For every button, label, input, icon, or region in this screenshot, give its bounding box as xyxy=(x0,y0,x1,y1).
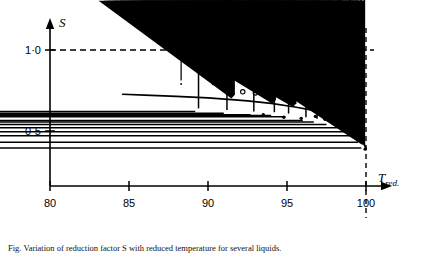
x-tick-label-0: 80 xyxy=(44,197,56,209)
filled-dot-markers xyxy=(323,118,326,121)
figure-container: 0·51·080859095100STred. xyxy=(0,0,424,258)
filled-dot-markers xyxy=(282,116,285,119)
filled-dot-markers xyxy=(364,147,367,150)
y-axis-title: S xyxy=(59,15,66,30)
circle-markers xyxy=(241,90,245,94)
y-tick-label-1: 1·0 xyxy=(25,44,41,56)
filled-dot-markers xyxy=(361,141,364,144)
x-tick-label-1: 85 xyxy=(123,197,135,209)
filled-dot-markers xyxy=(350,128,353,131)
filled-dot-markers xyxy=(333,120,336,123)
filled-dot-markers xyxy=(356,134,359,137)
x-tick-label-3: 95 xyxy=(281,197,293,209)
x-tick-label-2: 90 xyxy=(202,197,214,209)
filled-dot-markers xyxy=(314,115,317,118)
figure-caption: Fig. Variation of reduction factor S wit… xyxy=(8,243,418,253)
filled-dot-markers xyxy=(262,113,265,116)
x-tick-label-4: 100 xyxy=(357,197,375,209)
y-axis-arrowhead xyxy=(46,18,54,29)
filled-dot-markers xyxy=(300,117,303,120)
filled-dot-markers xyxy=(342,123,345,126)
scatter-plot: 0·51·080859095100STred. xyxy=(0,0,424,258)
